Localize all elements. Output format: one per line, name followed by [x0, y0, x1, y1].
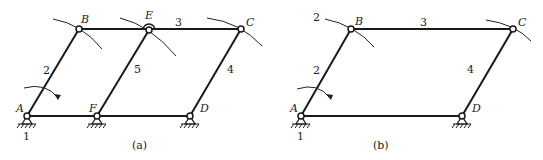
label-link-4-b: 4 — [467, 63, 474, 76]
label-link-3-a: 3 — [175, 16, 182, 29]
caption-b: (b) — [373, 139, 389, 152]
arc-b-a — [53, 19, 102, 49]
joint-b-b — [348, 26, 354, 32]
figure-a: B E C A F D 2 3 4 5 1 (a) — [15, 9, 262, 152]
label-b-b: B — [354, 15, 363, 28]
label-d-a: D — [199, 102, 209, 115]
linkage-diagrams: B E C A F D 2 3 4 5 1 (a) — [0, 0, 543, 160]
link-ab-b — [301, 29, 351, 116]
joint-c-b — [510, 26, 516, 32]
label-c-a: C — [246, 16, 255, 29]
label-c-b: C — [518, 16, 527, 29]
label-a-a: A — [15, 102, 24, 115]
label-link-5-a: 5 — [134, 63, 141, 76]
caption-a: (a) — [132, 139, 147, 152]
label-link-2-top-b: 2 — [313, 11, 320, 24]
label-frame-1-b: 1 — [297, 130, 304, 143]
joint-c-a — [238, 26, 244, 32]
joint-b-a — [76, 26, 82, 32]
label-a-b: A — [289, 102, 298, 115]
label-link-2-a: 2 — [43, 64, 50, 77]
label-link-3-b: 3 — [420, 16, 427, 29]
figure-b: B C A D 2 2 3 4 1 (b) — [289, 11, 531, 152]
link-ab-a — [27, 29, 79, 116]
label-link-4-a: 4 — [227, 63, 234, 76]
label-f-a: F — [88, 102, 97, 115]
label-b-a: B — [80, 13, 89, 26]
label-frame-1-a: 1 — [23, 130, 30, 143]
label-link-2-b: 2 — [313, 64, 320, 77]
joint-e-a — [146, 27, 152, 33]
link-ef-a — [97, 30, 149, 116]
label-e-a: E — [144, 9, 153, 22]
arrowhead-icon — [54, 94, 61, 100]
arrowhead-icon-b — [326, 94, 333, 100]
label-d-b: D — [471, 102, 481, 115]
